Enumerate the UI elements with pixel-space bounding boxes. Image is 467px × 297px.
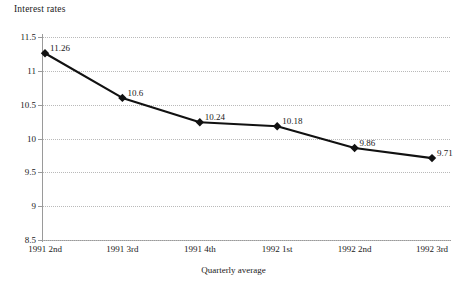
data-point-marker <box>196 118 204 126</box>
data-point-label: 11.26 <box>50 43 70 53</box>
x-tick-label: 1992 3rd <box>416 244 448 254</box>
y-tick-mark <box>38 71 43 72</box>
data-point-label: 9.86 <box>360 138 376 148</box>
data-point-marker <box>41 49 49 57</box>
x-tick-label: 1991 4th <box>184 244 216 254</box>
data-point-marker <box>428 154 436 162</box>
data-point-label: 10.24 <box>205 112 225 122</box>
y-tick-mark <box>38 37 43 38</box>
y-tick-mark <box>38 206 43 207</box>
series-markers <box>41 49 436 162</box>
y-tick-mark <box>38 172 43 173</box>
data-point-label: 9.71 <box>437 148 453 158</box>
x-tick-label: 1992 2nd <box>338 244 372 254</box>
data-point-marker <box>118 94 126 102</box>
x-tick-label: 1991 3rd <box>106 244 138 254</box>
data-point-marker <box>350 144 358 152</box>
x-tick-label: 1992 1st <box>262 244 293 254</box>
chart-page: Interest rates 11.51110.5109.598.5 Quart… <box>0 0 467 297</box>
data-point-marker <box>273 122 281 130</box>
data-point-label: 10.6 <box>127 88 143 98</box>
y-tick-mark <box>38 240 43 241</box>
series-line-chart <box>0 0 467 297</box>
y-tick-mark <box>38 139 43 140</box>
data-point-label: 10.18 <box>282 116 302 126</box>
y-tick-mark <box>38 105 43 106</box>
x-tick-label: 1991 2nd <box>28 244 62 254</box>
x-axis-title: Quarterly average <box>0 265 467 275</box>
